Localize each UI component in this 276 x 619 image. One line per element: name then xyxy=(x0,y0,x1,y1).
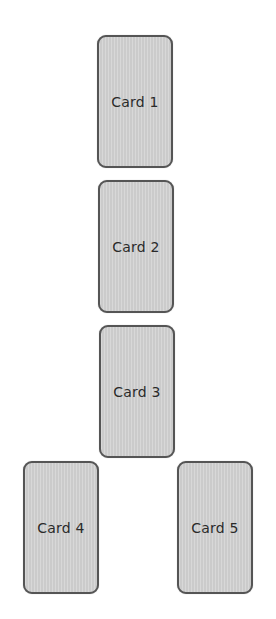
card-3-label: Card 3 xyxy=(113,384,160,400)
card-1[interactable]: Card 1 xyxy=(97,35,173,168)
card-2-label: Card 2 xyxy=(112,239,159,255)
card-2[interactable]: Card 2 xyxy=(98,180,174,313)
card-1-label: Card 1 xyxy=(111,94,158,110)
card-5-label: Card 5 xyxy=(191,520,238,536)
card-5[interactable]: Card 5 xyxy=(177,461,253,594)
card-4-label: Card 4 xyxy=(37,520,84,536)
card-4[interactable]: Card 4 xyxy=(23,461,99,594)
card-3[interactable]: Card 3 xyxy=(99,325,175,458)
